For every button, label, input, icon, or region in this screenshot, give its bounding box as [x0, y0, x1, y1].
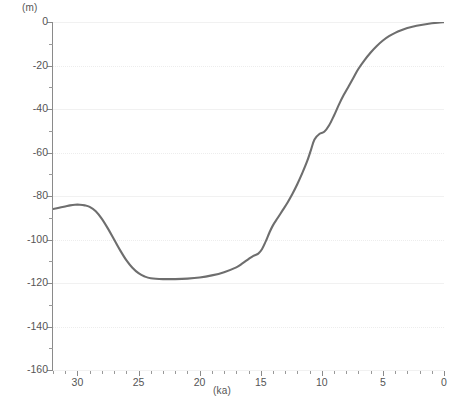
x-tick-4 [395, 371, 396, 374]
x-tick-23 [163, 371, 164, 374]
x-tick-12 [297, 371, 298, 374]
x-tick-label-15: 15 [241, 376, 281, 388]
x-tick-13 [285, 371, 286, 374]
y-tick-label--140: -140 [4, 320, 48, 332]
x-tick-label-25: 25 [119, 376, 159, 388]
x-tick-label-5: 5 [363, 376, 403, 388]
x-tick-3 [407, 371, 408, 374]
x-tick-6 [371, 371, 372, 374]
y-tick--150 [49, 348, 53, 349]
x-tick-21 [187, 371, 188, 374]
x-tick-label-20: 20 [180, 376, 220, 388]
x-tick-18 [224, 371, 225, 374]
x-tick-label-0: 0 [424, 376, 452, 388]
y-tick-label--160: -160 [4, 363, 48, 375]
y-axis-unit-label: (m) [22, 2, 38, 13]
x-tick-label-30: 30 [57, 376, 97, 388]
x-tick-28 [102, 371, 103, 374]
y-tick-label-0: 0 [4, 15, 48, 27]
x-tick-label-10: 10 [302, 376, 342, 388]
y-tick--10 [49, 44, 53, 45]
x-tick-1 [432, 371, 433, 374]
y-tick-label--40: -40 [4, 102, 48, 114]
x-tick-7 [358, 371, 359, 374]
x-tick-9 [334, 371, 335, 374]
y-tick-label--60: -60 [4, 146, 48, 158]
x-tick-11 [310, 371, 311, 374]
sea-level-curve-path [53, 22, 444, 279]
x-tick-26 [126, 371, 127, 374]
sea-level-curve-svg [53, 22, 444, 370]
y-tick--110 [49, 261, 53, 262]
y-tick--70 [49, 174, 53, 175]
plot-area [53, 22, 444, 370]
y-tick-label--100: -100 [4, 233, 48, 245]
y-tick-label--120: -120 [4, 276, 48, 288]
y-tick--50 [49, 131, 53, 132]
x-tick-8 [346, 371, 347, 374]
x-tick-29 [90, 371, 91, 374]
y-tick--90 [49, 218, 53, 219]
x-tick-27 [114, 371, 115, 374]
x-tick-17 [236, 371, 237, 374]
x-tick-14 [273, 371, 274, 374]
x-tick-16 [249, 371, 250, 374]
y-tick-label--20: -20 [4, 59, 48, 71]
x-tick-32 [53, 371, 54, 374]
x-tick-19 [212, 371, 213, 374]
y-tick--130 [49, 305, 53, 306]
x-tick-2 [420, 371, 421, 374]
x-tick-24 [151, 371, 152, 374]
x-tick-31 [65, 371, 66, 374]
y-tick-label--80: -80 [4, 189, 48, 201]
x-tick-22 [175, 371, 176, 374]
y-tick--30 [49, 87, 53, 88]
